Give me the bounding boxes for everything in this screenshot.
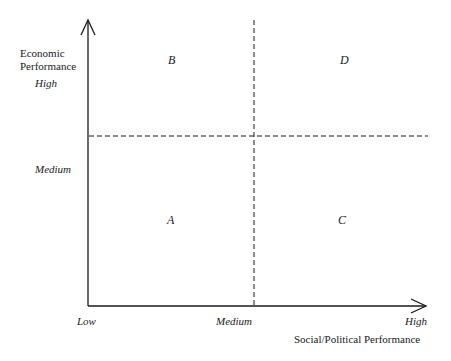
- quadrant-a-label: A: [167, 214, 174, 226]
- x-tick-medium: Medium: [216, 316, 252, 327]
- y-tick-medium: Medium: [35, 164, 71, 175]
- x-axis-title: Social/Political Performance: [294, 334, 420, 345]
- y-axis-title-line2: Performance: [20, 61, 76, 72]
- quadrant-d-label: D: [340, 54, 349, 66]
- quadrant-c-label: C: [338, 214, 346, 226]
- x-tick-low: Low: [77, 316, 96, 327]
- x-tick-high: High: [405, 316, 427, 327]
- y-axis-title-line1: Economic: [20, 48, 65, 59]
- quadrant-b-label: B: [168, 54, 175, 66]
- y-tick-high: High: [35, 78, 57, 89]
- quadrant-diagram: [0, 0, 451, 361]
